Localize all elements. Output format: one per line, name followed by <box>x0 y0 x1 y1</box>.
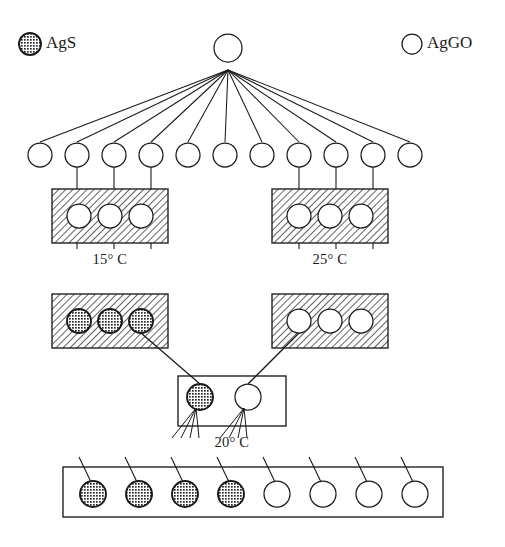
box-box-right-aggo[interactable] <box>272 294 388 348</box>
box-left-ags-circle-2[interactable] <box>129 309 153 333</box>
temperature-label-15c: 15° C <box>93 251 128 268</box>
connector-ags_branch <box>141 333 200 384</box>
root-circle[interactable] <box>214 34 242 62</box>
root-node[interactable] <box>214 34 242 62</box>
temperature-label-20c: 20° C <box>215 434 250 451</box>
box-bottom-circle-7[interactable] <box>402 481 428 507</box>
tip-circle-2[interactable] <box>102 143 126 167</box>
tip-circle-4[interactable] <box>176 143 200 167</box>
legend-label-ags: AgS <box>46 33 76 53</box>
root-edge-1 <box>77 70 228 142</box>
lineage-diagram-svg <box>0 0 505 547</box>
box-left-ags-circle-0[interactable] <box>67 309 91 333</box>
box-left-ags-circle-1[interactable] <box>98 309 122 333</box>
box-bottom-circle-4[interactable] <box>264 481 290 507</box>
group-boxes[interactable] <box>52 189 443 517</box>
legend-marker-aggo[interactable] <box>402 34 422 54</box>
box-20c-circle-0[interactable] <box>187 384 213 410</box>
box-15c-circle-0[interactable] <box>67 204 91 228</box>
diagram-canvas: AgS AgGO 15° C 25° C 20° C <box>0 0 505 547</box>
box-15c-circle-1[interactable] <box>98 204 122 228</box>
tip-circle-7[interactable] <box>287 143 311 167</box>
tip-circle-10[interactable] <box>398 143 422 167</box>
root-edge-2 <box>114 70 228 142</box>
tip-circle-3[interactable] <box>139 143 163 167</box>
legend-label-aggo: AgGO <box>427 33 472 53</box>
legend-marker-ags[interactable] <box>19 33 41 55</box>
box-right-aggo-circle-1[interactable] <box>318 309 342 333</box>
box-bottom-circle-6[interactable] <box>356 481 382 507</box>
box-right-aggo-circle-0[interactable] <box>287 309 311 333</box>
box-right-aggo-circle-2[interactable] <box>349 309 373 333</box>
box-15c-circle-2[interactable] <box>129 204 153 228</box>
tip-circle-8[interactable] <box>324 143 348 167</box>
root-fan-edges <box>40 70 410 142</box>
tip-circle-row[interactable] <box>28 143 422 167</box>
tip-circle-5[interactable] <box>213 143 237 167</box>
tip-circle-0[interactable] <box>28 143 52 167</box>
box-bottom-circle-2[interactable] <box>172 481 198 507</box>
box-25c-circle-0[interactable] <box>287 204 311 228</box>
box-bottom-circle-0[interactable] <box>80 481 106 507</box>
box-bottom-circle-5[interactable] <box>310 481 336 507</box>
box-box-15c[interactable] <box>52 189 168 243</box>
box-25c-circle-2[interactable] <box>349 204 373 228</box>
root-edge-3 <box>151 70 228 142</box>
root-edge-7 <box>228 70 299 142</box>
root-edge-9 <box>228 70 373 142</box>
root-edge-5 <box>225 70 228 142</box>
box-bottom-circle-3[interactable] <box>218 481 244 507</box>
tip-circle-6[interactable] <box>250 143 274 167</box>
temperature-label-25c: 25° C <box>313 251 348 268</box>
tip-circle-9[interactable] <box>361 143 385 167</box>
root-edge-0 <box>40 70 228 142</box>
box-20c-circle-1[interactable] <box>235 384 261 410</box>
box-25c-circle-1[interactable] <box>318 204 342 228</box>
root-edge-4 <box>188 70 228 142</box>
box-box-25c[interactable] <box>272 189 388 243</box>
box-box-bottom[interactable] <box>63 467 443 517</box>
tip-circle-1[interactable] <box>65 143 89 167</box>
box-bottom-circle-1[interactable] <box>126 481 152 507</box>
box-bottom-frame[interactable] <box>63 467 443 517</box>
box-box-left-ags[interactable] <box>52 294 168 348</box>
